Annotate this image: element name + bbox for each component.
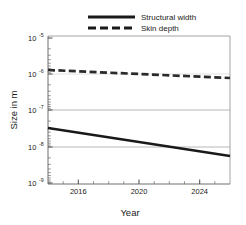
legend-label-skin-depth: Skin depth: [141, 24, 179, 33]
svg-text:-9: -9: [39, 177, 44, 183]
x-tick-label-2024: 2024: [191, 187, 208, 196]
figure-background: [0, 0, 246, 225]
svg-text:10: 10: [28, 179, 36, 188]
svg-text:10: 10: [28, 70, 36, 79]
svg-text:-5: -5: [39, 32, 44, 38]
svg-text:-8: -8: [39, 141, 44, 147]
legend-label-structural-width: Structural width: [141, 13, 196, 22]
svg-text:-6: -6: [39, 68, 44, 74]
svg-text:10: 10: [28, 143, 36, 152]
chart-figure: Structural width Skin depth: [0, 0, 246, 225]
x-axis-title: Year: [120, 207, 139, 218]
x-tick-label-2016: 2016: [70, 187, 87, 196]
svg-text:10: 10: [28, 106, 36, 115]
x-tick-label-2020: 2020: [131, 187, 148, 196]
chart-canvas: Structural width Skin depth: [0, 0, 246, 225]
y-axis-title: Size in m: [8, 90, 19, 129]
svg-text:-7: -7: [39, 104, 44, 110]
svg-text:10: 10: [28, 34, 36, 43]
